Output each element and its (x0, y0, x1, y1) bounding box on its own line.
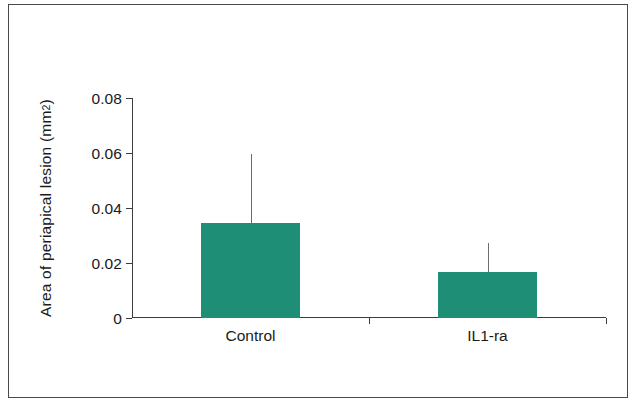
y-axis-tick-label: 0.04 (91, 200, 122, 218)
plot-area: 00.020.040.060.08 ControlIL1-ra (132, 98, 606, 318)
y-axis-tick: 0.06 (126, 153, 132, 154)
y-axis-title-suffix: ) (37, 99, 55, 104)
y-axis-tick-label: 0 (113, 310, 122, 328)
bar (438, 272, 538, 318)
y-axis-tick: 0.02 (126, 263, 132, 264)
x-axis-category-label: IL1-ra (467, 327, 508, 345)
figure-frame: Area of periapical lesion (mm2) 00.020.0… (8, 4, 628, 398)
figure-canvas: Area of periapical lesion (mm2) 00.020.0… (0, 0, 637, 409)
x-axis-category-label: Control (226, 327, 276, 345)
y-axis-tick: 0.04 (126, 208, 132, 209)
y-axis-tick-label: 0.02 (91, 255, 122, 273)
y-axis-title: Area of periapical lesion (mm2) (35, 98, 57, 318)
x-axis-tick (369, 318, 370, 324)
y-axis-line (132, 98, 133, 318)
x-axis-tick (606, 318, 607, 324)
y-axis-tick-label: 0.06 (91, 145, 122, 163)
error-bar (488, 243, 489, 272)
error-bar (251, 154, 252, 223)
y-axis-tick: 0.08 (126, 98, 132, 99)
bar (201, 223, 301, 318)
y-axis-tick-label: 0.08 (91, 90, 122, 108)
y-axis-tick: 0 (126, 318, 132, 319)
y-axis-title-prefix: Area of periapical lesion (mm (37, 110, 55, 317)
